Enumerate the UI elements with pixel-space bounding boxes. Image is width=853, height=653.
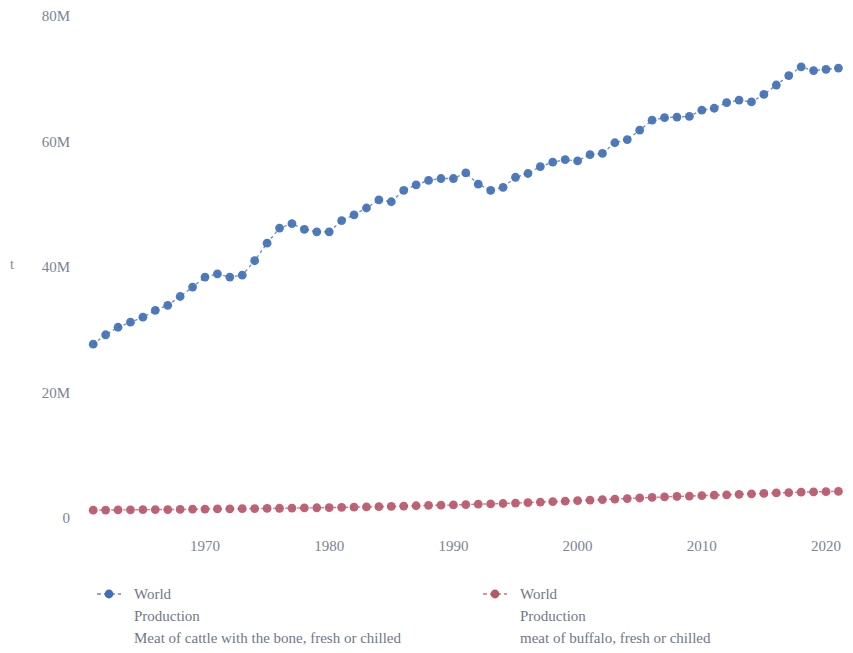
x-tick-label: 1990 (438, 538, 468, 554)
data-point (784, 488, 793, 497)
data-point (114, 506, 123, 515)
data-point (374, 195, 383, 204)
y-tick-label: 80M (42, 8, 70, 24)
data-point (275, 504, 284, 513)
data-point (573, 157, 582, 166)
data-point (89, 506, 98, 515)
legend-marker-icon (491, 590, 500, 599)
legend-label-line2: Production (520, 608, 586, 624)
data-point (437, 174, 446, 183)
data-point (536, 162, 545, 171)
data-point (325, 503, 334, 512)
data-point (623, 135, 632, 144)
data-point (176, 505, 185, 514)
data-point (610, 138, 619, 147)
data-point (635, 494, 644, 503)
data-point (784, 71, 793, 80)
data-point (548, 158, 557, 167)
data-point (163, 301, 172, 310)
data-point (797, 488, 806, 497)
data-point (797, 62, 806, 71)
data-point (673, 113, 682, 122)
data-point (809, 488, 818, 497)
data-point (772, 81, 781, 90)
legend-label-line1: World (520, 586, 558, 602)
x-tick-label: 2020 (811, 538, 841, 554)
data-point (387, 502, 396, 511)
data-point (573, 496, 582, 505)
data-point (412, 501, 421, 510)
data-point (660, 493, 669, 502)
data-point (772, 489, 781, 498)
data-point (374, 502, 383, 511)
data-point (188, 505, 197, 514)
data-point (697, 106, 706, 115)
data-point (499, 499, 508, 508)
data-point (263, 239, 272, 248)
data-point (101, 330, 110, 339)
data-point (474, 500, 483, 509)
data-point (461, 168, 470, 177)
line-chart-svg: 020M40M60M80M 197019801990200020102020 t… (0, 0, 853, 653)
data-point (648, 116, 657, 125)
data-point (623, 494, 632, 503)
data-point (263, 504, 272, 513)
data-point (350, 211, 359, 220)
data-point (238, 504, 247, 513)
data-point (673, 492, 682, 501)
data-point (834, 64, 843, 73)
data-point (300, 225, 309, 234)
data-point (499, 183, 508, 192)
data-point (809, 66, 818, 75)
data-point (536, 498, 545, 507)
data-point (424, 501, 433, 510)
data-point (449, 501, 458, 510)
data-point (201, 273, 210, 282)
data-point (325, 227, 334, 236)
legend-marker-icon (105, 590, 114, 599)
data-point (424, 176, 433, 185)
data-point (561, 497, 570, 506)
data-point (176, 292, 185, 301)
data-point (722, 490, 731, 499)
data-point (387, 197, 396, 206)
data-point (101, 506, 110, 515)
data-point (722, 98, 731, 107)
data-point (126, 318, 135, 327)
data-point (213, 505, 222, 514)
data-point (238, 271, 247, 280)
data-point (524, 498, 533, 507)
data-point (288, 504, 297, 513)
data-point (399, 186, 408, 195)
data-point (747, 98, 756, 107)
data-point (337, 216, 346, 225)
y-tick-label: 40M (42, 259, 70, 275)
data-point (337, 503, 346, 512)
data-point (139, 313, 148, 322)
data-point (834, 487, 843, 496)
data-point (188, 283, 197, 292)
y-axis-title-text: t (10, 257, 14, 272)
y-tick-label: 0 (63, 510, 71, 526)
data-point (685, 112, 694, 121)
legend-label-line1: World (134, 586, 172, 602)
y-axis-title: t (10, 257, 14, 272)
data-point (412, 180, 421, 189)
data-point (598, 495, 607, 504)
data-point (275, 224, 284, 233)
data-point (760, 489, 769, 498)
data-point (213, 270, 222, 279)
data-point (511, 499, 520, 508)
data-point (747, 489, 756, 498)
data-point (586, 496, 595, 505)
x-tick-label: 1980 (314, 538, 344, 554)
data-point (201, 505, 210, 514)
data-point (648, 493, 657, 502)
data-point (822, 487, 831, 496)
data-point (548, 497, 557, 506)
data-point (822, 65, 831, 74)
x-tick-label: 2010 (687, 538, 717, 554)
data-point (635, 126, 644, 135)
data-point (710, 104, 719, 113)
data-point (151, 505, 160, 514)
